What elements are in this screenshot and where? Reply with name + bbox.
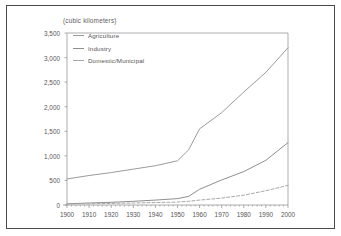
x-tick-label: 1950	[170, 211, 184, 218]
y-tick-label: 2,500	[44, 79, 60, 86]
x-tick-label: 1990	[259, 211, 273, 218]
y-tick-label: 500	[49, 177, 60, 184]
y-tick-label: 3,000	[44, 54, 60, 61]
x-tick-label: 1940	[148, 211, 162, 218]
x-tick-label: 1920	[104, 211, 118, 218]
y-tick-label: 0	[56, 202, 60, 209]
series-line-industry	[67, 143, 288, 204]
y-tick-label: 2,000	[44, 103, 60, 110]
y-tick-label: 1,000	[44, 152, 60, 159]
chart-plot-area	[7, 6, 336, 230]
y-tick-label: 1,500	[44, 128, 60, 135]
x-tick-label: 1930	[126, 211, 140, 218]
series-line-agriculture	[67, 48, 288, 179]
x-tick-label: 1960	[192, 211, 206, 218]
x-tick-label: 1970	[215, 211, 229, 218]
x-tick-label: 1900	[60, 211, 74, 218]
x-tick-label: 2000	[281, 211, 295, 218]
x-tick-label: 1910	[82, 211, 96, 218]
figure-frame: (cubic kilometers) Agriculture Industry …	[6, 5, 335, 229]
x-tick-label: 1980	[237, 211, 251, 218]
y-tick-label: 3,500	[44, 30, 60, 37]
series-line-domestic-municipal	[67, 185, 288, 204]
